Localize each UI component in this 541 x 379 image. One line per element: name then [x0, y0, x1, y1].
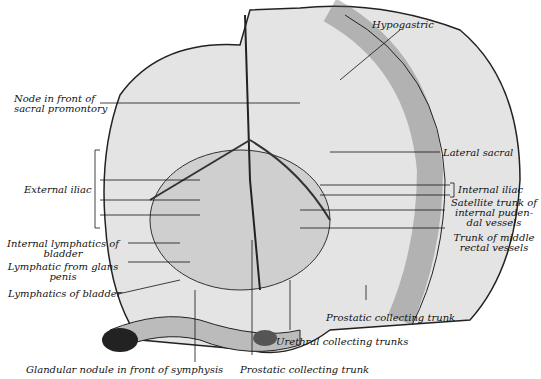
label-node-sacral-2: sacral promontory	[14, 103, 107, 114]
label-glandular-nodule: Glandular nodule in front of symphysis	[26, 364, 223, 375]
label-prostatic-right: Prostatic collecting trunk	[326, 312, 455, 323]
label-prostatic-bottom: Prostatic collecting trunk	[240, 364, 369, 375]
label-internal-iliac: Internal iliac	[458, 184, 523, 195]
label-external-iliac: External iliac	[24, 184, 92, 195]
label-middle-rectal-2: rectal vessels	[448, 242, 540, 253]
anatomy-diagram: Hypogastric Node in front of sacral prom…	[0, 0, 541, 379]
label-internal-lymph-2: bladder	[4, 248, 122, 259]
label-lymph-bladder: Lymphatics of bladder	[8, 288, 122, 299]
label-lateral-sacral: Lateral sacral	[443, 147, 513, 158]
label-urethral: Urethral collecting trunks	[276, 336, 408, 347]
label-glans-2: penis	[4, 271, 122, 282]
label-hypogastric: Hypogastric	[372, 19, 434, 30]
label-satellite-3: dal vessels	[448, 217, 540, 228]
